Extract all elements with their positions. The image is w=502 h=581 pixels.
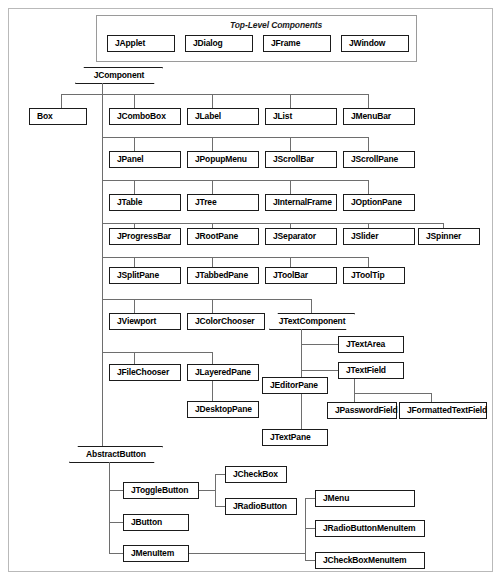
class-box-jscrollpane[interactable]: JScrollPane [343, 151, 415, 168]
class-label-jtree: JTree [188, 198, 216, 207]
class-box-jviewport[interactable]: JViewport [109, 313, 181, 330]
connector-jpasswordfield [354, 393, 355, 402]
class-label-jtable: JTable [110, 198, 142, 207]
class-box-jlayeredpane[interactable]: JLayeredPane [187, 364, 259, 381]
class-box-jpanel[interactable]: JPanel [109, 151, 181, 168]
class-box-jmenu[interactable]: JMenu [315, 490, 415, 507]
class-box-jrootpane[interactable]: JRootPane [187, 228, 259, 245]
connector-row1-jlabel [212, 94, 213, 108]
class-box-jtoolbar[interactable]: JToolBar [265, 267, 337, 284]
class-label-jtextpane: JTextPane [263, 433, 311, 442]
connector-row1-rail [102, 94, 368, 95]
class-label-jspinner: JSpinner [419, 232, 461, 241]
class-box-jcombobox[interactable]: JComboBox [109, 108, 181, 125]
class-box-jbutton[interactable]: JButton [123, 514, 189, 531]
class-label-box: Box [30, 112, 53, 121]
class-box-jtree[interactable]: JTree [187, 194, 259, 211]
class-label-jlist: JList [266, 112, 292, 121]
class-label-jtogglebutton: JToggleButton [124, 486, 188, 495]
class-box-jslider[interactable]: JSlider [343, 228, 415, 245]
class-box-jlabel[interactable]: JLabel [187, 108, 259, 125]
class-box-jspinner[interactable]: JSpinner [418, 228, 480, 245]
class-label-jformattedtextfield: JFormattedTextField [400, 406, 487, 415]
connector-jcheckbox [215, 474, 225, 475]
class-box-jdialog[interactable]: JDialog [185, 35, 253, 52]
connector-row1-jcombobox [134, 94, 135, 108]
class-label-jfilechooser: JFileChooser [110, 368, 169, 377]
connector-row3-jinternalframe [290, 180, 291, 194]
class-box-jmenubar[interactable]: JMenuBar [343, 108, 415, 125]
class-box-jpasswordfield[interactable]: JPasswordField [327, 402, 397, 419]
class-label-jwindow: JWindow [342, 39, 385, 48]
class-box-jtogglebutton[interactable]: JToggleButton [123, 482, 199, 499]
class-label-jlayeredpane: JLayeredPane [188, 368, 251, 377]
connector-jtextfield [301, 370, 338, 371]
class-box-jtextfield[interactable]: JTextField [338, 362, 404, 379]
class-label-jtooltip: JToolTip [344, 271, 384, 280]
class-box-jfilechooser[interactable]: JFileChooser [109, 364, 181, 381]
class-box-jpopupmenu[interactable]: JPopupMenu [187, 151, 259, 168]
class-box-japplet[interactable]: JApplet [107, 35, 175, 52]
class-box-jtextcomponent[interactable]: JTextComponent [269, 313, 355, 330]
class-box-jtable[interactable]: JTable [109, 194, 181, 211]
class-box-jradiobutton[interactable]: JRadioButton [225, 498, 297, 515]
connector-box-drop [61, 94, 62, 108]
class-label-jprogressbar: JProgressBar [110, 232, 171, 241]
class-label-jscrollbar: JScrollBar [266, 155, 314, 164]
class-box-jframe[interactable]: JFrame [263, 35, 331, 52]
class-box-jwindow[interactable]: JWindow [341, 35, 409, 52]
class-box-jscrollbar[interactable]: JScrollBar [265, 151, 337, 168]
connector-row3-rail [102, 180, 368, 181]
class-box-jprogressbar[interactable]: JProgressBar [109, 228, 181, 245]
class-box-joptionpane[interactable]: JOptionPane [343, 194, 415, 211]
class-label-jseparator: JSeparator [266, 232, 316, 241]
connector-jmenu [305, 498, 315, 499]
class-box-jradiobuttonmenuitem[interactable]: JRadioButtonMenuItem [315, 520, 425, 537]
connector-jbutton [109, 522, 123, 523]
class-label-jtextcomponent: JTextComponent [269, 313, 355, 330]
class-box-jdesktoppane[interactable]: JDesktopPane [187, 401, 259, 418]
class-box-jtabbedpane[interactable]: JTabbedPane [187, 267, 259, 284]
connector-row2-jscrollpane [368, 137, 369, 151]
class-box-jeditorpane[interactable]: JEditorPane [262, 377, 328, 394]
connector-row6-jcolorchooser [212, 299, 213, 313]
connector-jdesktoppane [212, 381, 213, 401]
class-label-jradiobutton: JRadioButton [226, 502, 287, 511]
diagram-frame: Top-Level Components JApplet JDialog JFr… [8, 8, 493, 572]
connector-jradiobutton [215, 506, 225, 507]
connector-row2-jpanel [134, 137, 135, 151]
class-box-jmenuitem[interactable]: JMenuItem [123, 545, 189, 562]
class-label-jviewport: JViewport [110, 317, 156, 326]
class-box-jcheckbox[interactable]: JCheckBox [225, 466, 287, 483]
connector-row3-jtree [212, 180, 213, 194]
class-box-box[interactable]: Box [29, 108, 87, 125]
class-box-jtextpane[interactable]: JTextPane [262, 429, 328, 446]
class-box-jcolorchooser[interactable]: JColorChooser [187, 313, 265, 330]
connector-row3-jtable [134, 180, 135, 194]
connector-jtogglebutton-rail [215, 474, 216, 506]
class-label-jcheckbox: JCheckBox [226, 470, 278, 479]
connector-jformattedtextfield [431, 393, 432, 402]
connector-row2-jscrollbar [290, 137, 291, 151]
connector-jtextarea [301, 344, 338, 345]
class-box-jtooltip[interactable]: JToolTip [343, 267, 405, 284]
class-label-abstractbutton: AbstractButton [69, 446, 163, 463]
class-label-jinternalframe: JInternalFrame [266, 198, 332, 207]
class-box-jformattedtextfield[interactable]: JFormattedTextField [399, 402, 487, 419]
class-box-abstractbutton[interactable]: AbstractButton [69, 446, 163, 463]
trunk-abstractbutton [109, 462, 110, 553]
class-label-jscrollpane: JScrollPane [344, 155, 398, 164]
class-box-jsplitpane[interactable]: JSplitPane [109, 267, 181, 284]
class-label-jcomponent: JComponent [75, 67, 163, 84]
class-label-joptionpane: JOptionPane [344, 198, 402, 207]
class-box-jseparator[interactable]: JSeparator [265, 228, 337, 245]
class-box-jcomponent[interactable]: JComponent [75, 67, 163, 84]
class-box-jcheckboxmenuitem[interactable]: JCheckBoxMenuItem [315, 552, 425, 569]
class-label-jdialog: JDialog [186, 39, 223, 48]
class-box-jtextarea[interactable]: JTextArea [338, 336, 404, 353]
class-label-jmenubar: JMenuBar [344, 112, 391, 121]
class-box-jinternalframe[interactable]: JInternalFrame [265, 194, 337, 211]
class-box-jlist[interactable]: JList [265, 108, 337, 125]
class-label-jdesktoppane: JDesktopPane [188, 405, 252, 414]
connector-jtextfield-rail [354, 393, 431, 394]
